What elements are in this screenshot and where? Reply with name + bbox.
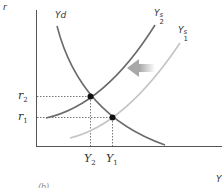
r2-tick-label: r2 [18, 90, 28, 104]
yd-label: Yd [55, 11, 66, 20]
y-axis-label: r [3, 3, 7, 12]
shift-left-arrow-icon [127, 59, 155, 77]
guide-lines [37, 97, 113, 147]
x-axis-label: Y [216, 175, 222, 184]
y1s-label: Ys1 [178, 26, 190, 35]
y2s-sub: 2 [160, 19, 164, 26]
equilibrium-point-1 [110, 115, 116, 121]
Y2-tick-label: Y2 [84, 153, 96, 167]
yd-curve [57, 26, 165, 145]
r1-tick-label: r1 [18, 111, 28, 125]
y2s-label: Ys2 [154, 9, 166, 18]
Y1-tick-label: Y1 [106, 153, 118, 167]
y1s-sub: 1 [184, 36, 188, 43]
panel-label: (b) [38, 184, 49, 188]
equilibrium-point-2 [88, 94, 94, 100]
